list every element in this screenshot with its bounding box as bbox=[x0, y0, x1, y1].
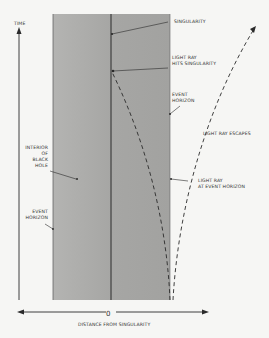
distance-axis-right-arrow-icon bbox=[202, 310, 209, 315]
interior-label-4: HOLE bbox=[35, 163, 48, 169]
pointer-dot bbox=[170, 178, 172, 180]
pointer-dot bbox=[169, 113, 171, 115]
pointer-event-horizon-top bbox=[170, 106, 180, 114]
distance-axis-left-arrow-icon bbox=[17, 310, 24, 315]
pointer-dot bbox=[112, 70, 115, 73]
pointer-dot bbox=[52, 228, 54, 230]
time-axis-arrow-icon bbox=[17, 27, 22, 34]
time-axis-label: TIME bbox=[14, 21, 25, 27]
pointer-dot bbox=[76, 178, 78, 180]
singularity-label: SINGULARITY bbox=[174, 19, 206, 25]
distance-axis-label: DISTANCE FROM SINGULARITY bbox=[78, 322, 150, 328]
light-ray-escapes-arrow-icon bbox=[250, 26, 256, 33]
origin-label: 0 bbox=[106, 311, 111, 317]
event-horizon-top-label-2: HORIZON bbox=[172, 98, 195, 104]
light-ray-escapes-label: LIGHT RAY ESCAPES bbox=[203, 131, 251, 137]
light-ray-hits-label-2: HITS SINGULARITY bbox=[172, 61, 216, 67]
event-horizon-left-label-2: HORIZON bbox=[25, 215, 48, 221]
light-ray-eh-label-2: AT EVENT HORIZON bbox=[198, 184, 245, 190]
light-ray-escapes-path bbox=[173, 29, 254, 300]
pointer-event-horizon-left bbox=[45, 224, 53, 229]
spacetime-diagram bbox=[0, 0, 269, 338]
pointer-dot bbox=[111, 33, 113, 35]
pointer-light-ray-eh bbox=[171, 179, 188, 181]
